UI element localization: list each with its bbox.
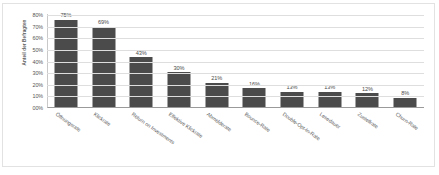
x-tick-label: Churn-Rate [394,111,419,131]
y-tick-label: 50% [33,47,44,53]
bar[interactable] [54,20,77,107]
bar[interactable] [167,72,190,107]
bar-value-label: 69% [98,19,109,25]
bar[interactable] [318,92,341,107]
bar-group[interactable]: 16% [236,14,274,107]
gridline [47,73,424,74]
bar-group[interactable]: 75% [47,14,85,107]
gridline [47,38,424,39]
x-tick-label: Double-Opt-In-Rate [281,111,321,141]
y-tick-label: 10% [33,93,44,99]
bar-group[interactable]: 43% [122,14,160,107]
bar-value-label: 21% [211,75,222,81]
x-axis-category-labels: ÖffnungsrateKlickrateReturn on Investmen… [47,109,424,171]
y-tick-label: 20% [33,82,44,88]
bar-group[interactable]: 13% [311,14,349,107]
bar[interactable] [356,93,379,107]
bar-group[interactable]: 21% [198,14,236,107]
x-tick-label: Lesedauer [319,111,342,130]
x-tick-label: Abmelderate [206,111,233,132]
bar-group[interactable]: 30% [160,14,198,107]
bar-group[interactable]: 69% [85,14,123,107]
bar[interactable] [130,57,153,107]
bar-value-label: 30% [173,65,184,71]
bar[interactable] [205,83,228,107]
y-tick-label: 00% [33,105,44,111]
bar-group[interactable]: 12% [349,14,387,107]
gridline [47,27,424,28]
bar-chart: Anteil der Befragten 80%70%60%50%40%30%2… [0,0,439,175]
x-tick-label: Öffnungsrate [55,111,82,133]
bar[interactable] [394,98,417,107]
bar-group[interactable]: 13% [273,14,311,107]
bar-group[interactable]: 8% [386,14,424,107]
x-tick-label: Effektive Klickrate [168,111,204,139]
y-tick-label: 70% [33,24,44,30]
gridline [47,62,424,63]
gridline [47,15,424,16]
y-tick-label: 80% [33,12,44,18]
y-axis-tick-labels: 80%70%60%50%40%30%20%10%00% [20,14,45,108]
x-tick-label: Zustellrate [356,111,379,129]
y-tick-label: 40% [33,59,44,65]
bar-value-label: 12% [362,86,373,92]
bar[interactable] [281,92,304,107]
gridline [47,96,424,97]
gridline [47,85,424,86]
y-tick-label: 60% [33,35,44,41]
y-tick-label: 30% [33,70,44,76]
plot-area: 75%69%43%30%21%16%13%13%12%8% [47,14,424,108]
x-tick-label: Klickrate [93,111,112,127]
x-tick-label: Bounce-Rate [243,111,271,133]
bar[interactable] [243,88,266,107]
bar-value-label: 8% [401,90,409,96]
gridline [47,50,424,51]
